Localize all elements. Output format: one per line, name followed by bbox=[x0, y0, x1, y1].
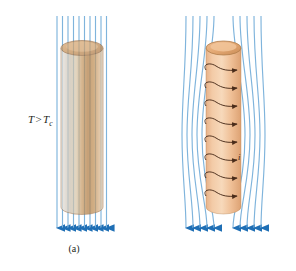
panel-b-graphic bbox=[148, 0, 296, 271]
panel-b-superconducting-state: T<Tc (b) bbox=[148, 0, 296, 271]
cylinder-b bbox=[206, 41, 241, 214]
temp-subscript: c bbox=[49, 119, 53, 128]
caption-a: (a) bbox=[0, 243, 148, 254]
cylinder-a bbox=[61, 41, 103, 215]
current-label-i: i bbox=[238, 152, 240, 162]
panel-a-graphic bbox=[0, 0, 148, 271]
panel-a-normal-state: T>Tc (a) bbox=[0, 0, 148, 271]
meissner-effect-figure: T>Tc (a) bbox=[0, 0, 296, 271]
temp-operator: > bbox=[34, 113, 43, 125]
temperature-label-a: T>Tc bbox=[28, 113, 53, 128]
